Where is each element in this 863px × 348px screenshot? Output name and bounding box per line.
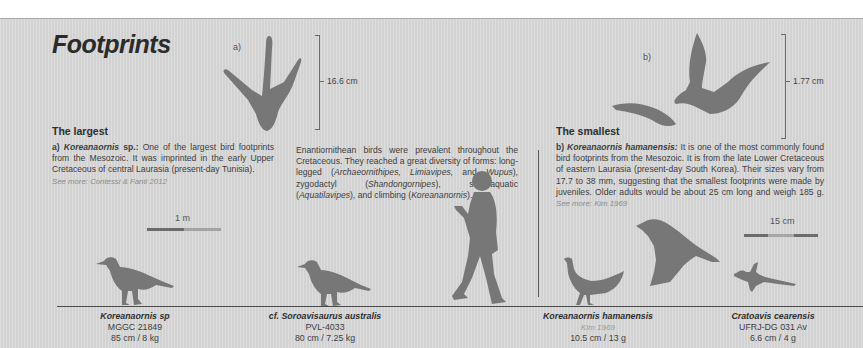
- human-silhouette-icon: [452, 170, 508, 306]
- specimen-id: UFRJ-DG 031 Av: [683, 322, 863, 333]
- specimen-caption-3: Koreanaornis hamanensis Kim 1969 10.5 cm…: [508, 311, 688, 345]
- specimen-ref: Kim 1969: [508, 322, 688, 333]
- specimen-caption-1: Koreanaornis sp MGGC 21849 85 cm / 8 kg: [45, 311, 225, 345]
- specimen-id: PVL-4033: [235, 322, 415, 333]
- footprint-b-icon: [610, 32, 780, 132]
- measure-tick-b: [786, 81, 790, 82]
- specimen-size: 6.6 cm / 4 g: [683, 333, 863, 344]
- specimen-name: Koreanaornis hamanensis: [508, 311, 688, 322]
- largest-prefix: a): [52, 142, 64, 152]
- bird-soroavisaurus-silhouette-icon: [295, 258, 380, 308]
- largest-see-more: See more: Contessi & Fanti 2012: [52, 177, 167, 186]
- specimen-size: 85 cm / 8 kg: [45, 333, 225, 344]
- page-title: Footprints: [52, 30, 171, 59]
- specimen-name: cf. Soroavisaurus australis: [235, 311, 415, 322]
- largest-species: Koreanaornis: [64, 142, 119, 152]
- bird-hamanensis-silhouette-icon: [562, 255, 632, 307]
- specimen-name: Koreanaornis sp: [45, 311, 225, 322]
- measure-tick-a: [320, 81, 324, 82]
- middle-italic: Shandongornipes: [368, 179, 435, 189]
- specimen-name: Cratoavis cearensis: [683, 311, 863, 322]
- scale-bar-1m: [147, 228, 221, 231]
- smallest-see-more: See more: Kim 1969: [556, 199, 627, 208]
- middle-italic: Archaeornithipes, Limiavipes,: [334, 167, 453, 177]
- measurement-a: 16.6 cm: [327, 76, 358, 86]
- middle-italic: Aquatilavipes: [299, 190, 350, 200]
- measure-bracket-a: [315, 35, 320, 130]
- smallest-prefix: b): [556, 142, 567, 152]
- measurement-b: 1.77 cm: [793, 76, 824, 86]
- largest-heading: The largest: [52, 125, 108, 137]
- specimen-caption-2: cf. Soroavisaurus australis PVL-4033 80 …: [235, 311, 415, 345]
- scale-right-label: 15 cm: [770, 216, 795, 226]
- specimen-size: 80 cm / 7.25 kg: [235, 333, 415, 344]
- smallest-heading: The smallest: [556, 125, 620, 137]
- scale-bar-15cm: [744, 234, 818, 237]
- section-divider: [538, 150, 539, 297]
- bird-flying-silhouette-icon: [636, 216, 726, 288]
- footprint-a-icon: [222, 34, 302, 134]
- measure-bracket-b: [781, 34, 786, 139]
- middle-text: ), and climbing (: [350, 190, 411, 200]
- smallest-description: b) Koreanaornis hamanensis: It is one of…: [556, 142, 824, 209]
- specimen-size: 10.5 cm / 13 g: [508, 333, 688, 344]
- scale-left-label: 1 m: [175, 213, 190, 223]
- largest-species-suffix: sp.:: [119, 142, 138, 152]
- specimen-caption-4: Cratoavis cearensis UFRJ-DG 031 Av 6.6 c…: [683, 311, 863, 345]
- smallest-species: Koreanaornis hamanensis:: [567, 142, 678, 152]
- specimen-id: MGGC 21849: [45, 322, 225, 333]
- bird-cratoavis-silhouette-icon: [734, 262, 796, 292]
- bird-koreanaornis-silhouette-icon: [94, 255, 184, 307]
- largest-description: a) Koreanaornis sp.: One of the largest …: [52, 142, 274, 187]
